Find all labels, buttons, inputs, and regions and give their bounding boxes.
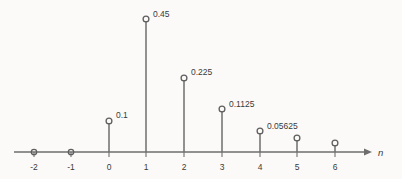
x-tick-label-neg2: -2 [30, 162, 38, 172]
x-tick-label-4: 4 [258, 162, 263, 172]
data-label-n4: 0.05625 [267, 121, 298, 131]
x-axis-arrowhead [364, 148, 372, 155]
x-tick-label-6: 6 [333, 162, 338, 172]
data-label-n2: 0.225 [191, 67, 213, 77]
stem-plot-figure: -2 -1 0 1 2 3 4 5 6 0.1 0.45 0.225 0.112… [0, 0, 402, 179]
data-value-labels: 0.1 0.45 0.225 0.1125 0.05625 [116, 9, 298, 131]
data-label-n3: 0.1125 [229, 99, 255, 109]
stem-plot-canvas: -2 -1 0 1 2 3 4 5 6 0.1 0.45 0.225 0.112… [0, 0, 402, 179]
x-tick-label-2: 2 [182, 162, 187, 172]
x-tick-labels: -2 -1 0 1 2 3 4 5 6 [30, 162, 337, 172]
data-label-n0: 0.1 [116, 110, 128, 120]
stem-lines [109, 21, 335, 152]
x-tick-label-3: 3 [220, 162, 225, 172]
x-tick-label-5: 5 [295, 162, 300, 172]
x-tick-label-1: 1 [144, 162, 149, 172]
x-tick-label-0: 0 [107, 162, 112, 172]
data-label-n1: 0.45 [153, 9, 170, 19]
x-axis-label: n [378, 147, 383, 158]
x-tick-label-neg1: -1 [67, 162, 75, 172]
